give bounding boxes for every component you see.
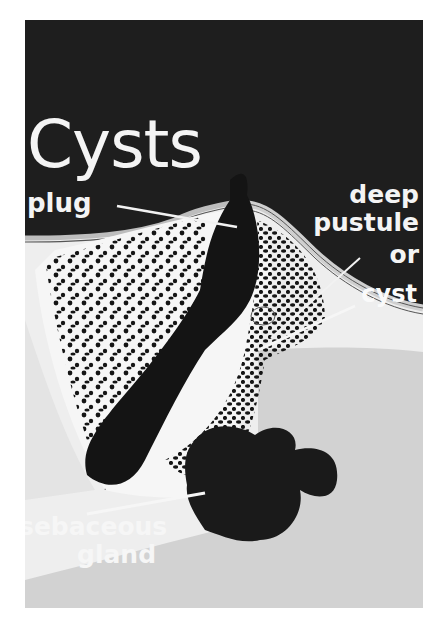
label-plug: plug [27,190,92,216]
label-or: or [389,242,419,267]
cysts-diagram: Cysts plug deep pustule or cyst sebaceou… [25,20,423,608]
label-sebaceous: sebaceous [25,514,167,539]
label-cyst: cyst [361,282,417,306]
label-deep: deep [349,182,419,207]
label-gland: gland [77,542,156,567]
diagram-title: Cysts [27,112,202,178]
label-pustule: pustule [313,210,419,235]
